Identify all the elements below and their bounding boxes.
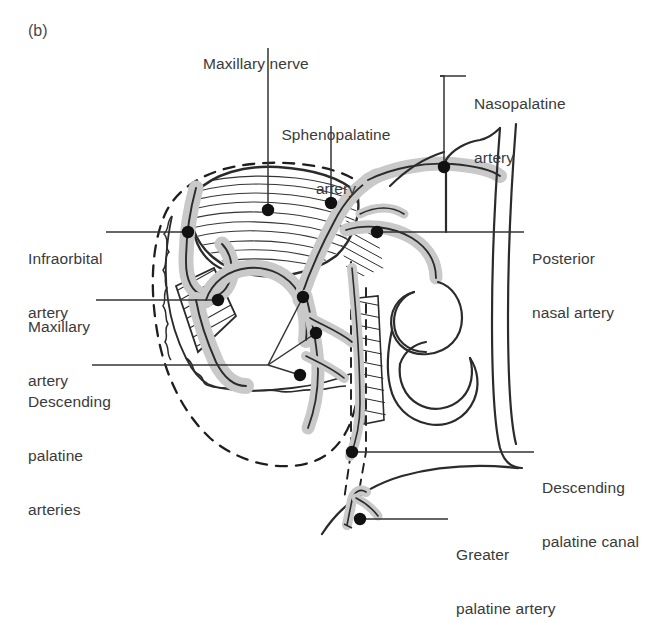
marker-descending-palatine-2 xyxy=(310,327,322,339)
marker-descending-palatine-3 xyxy=(294,369,306,381)
marker-maxillary-nerve xyxy=(262,204,274,216)
leader-dp-branch-1 xyxy=(268,297,303,365)
marker-descending-palatine-canal xyxy=(346,446,358,458)
label-greater-palatine-artery-line-1: Greater xyxy=(456,546,556,564)
label-sphenopalatine-artery: Sphenopalatine artery xyxy=(277,90,395,234)
nasal-turbinates xyxy=(388,282,478,425)
panel-letter: (b) xyxy=(28,22,48,40)
label-descending-palatine-canal-line-2: palatine canal xyxy=(542,533,639,551)
label-nasopalatine-artery: Nasopalatine artery xyxy=(474,59,566,203)
label-greater-palatine-artery: Greater palatine artery xyxy=(456,510,556,621)
label-descending-palatine-canal-line-1: Descending xyxy=(542,479,639,497)
label-descending-palatine-canal: Descending palatine canal xyxy=(542,443,639,587)
label-maxillary-artery-line-1: Maxillary xyxy=(28,318,90,336)
label-nasopalatine-artery-line-1: Nasopalatine xyxy=(474,95,566,113)
marker-infraorbital-artery xyxy=(182,226,194,238)
marker-greater-palatine-artery xyxy=(354,513,366,525)
label-descending-palatine-arteries-line-2: palatine xyxy=(28,447,111,465)
label-posterior-nasal-artery-line-2: nasal artery xyxy=(532,304,614,322)
label-sphenopalatine-artery-line-1: Sphenopalatine xyxy=(277,126,395,144)
label-descending-palatine-arteries-line-3: arteries xyxy=(28,501,111,519)
marker-maxillary-artery xyxy=(212,294,224,306)
label-sphenopalatine-artery-line-2: artery xyxy=(277,180,395,198)
label-infraorbital-artery-line-1: Infraorbital xyxy=(28,250,102,268)
marker-descending-palatine-1 xyxy=(297,291,309,303)
label-descending-palatine-arteries-line-1: Descending xyxy=(28,393,111,411)
marker-nasopalatine-artery xyxy=(438,161,450,173)
label-greater-palatine-artery-line-2: palatine artery xyxy=(456,600,556,618)
label-nasopalatine-artery-line-2: artery xyxy=(474,149,566,167)
label-maxillary-nerve-line-1: Maxillary nerve xyxy=(203,55,309,73)
label-posterior-nasal-artery: Posterior nasal artery xyxy=(532,214,614,358)
label-posterior-nasal-artery-line-1: Posterior xyxy=(532,250,614,268)
label-descending-palatine-arteries: Descending palatine arteries xyxy=(28,357,111,555)
